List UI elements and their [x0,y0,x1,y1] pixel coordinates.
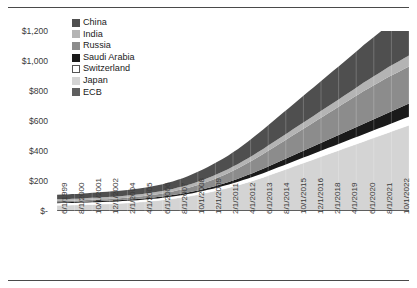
legend-label: ECB [83,87,102,99]
y-axis-tick-label: $600 [4,116,48,126]
legend-item-ecb[interactable]: ECB [72,87,135,99]
x-axis-tick-label: 12/1/2002 [111,178,120,214]
legend-label: Russia [83,40,111,52]
y-axis-tick-label: $1,200 [4,26,48,36]
y-axis-tick-label: $200 [4,176,48,186]
x-axis-tick-label: 10/1/2008 [197,178,206,214]
y-axis-tick-label: $400 [4,146,48,156]
x-axis-tick-label: 4/1/2019 [350,182,359,214]
legend-label: Switzerland [83,63,130,75]
legend-swatch-icon [72,30,80,38]
x-axis-tick-label: 6/1/2013 [265,182,274,214]
legend: ChinaIndiaRussiaSaudi ArabiaSwitzerlandJ… [72,17,135,98]
legend-label: India [83,29,103,41]
legend-swatch-icon [72,54,80,62]
x-axis-tick-label: 4/1/2012 [248,182,257,214]
legend-swatch-icon [72,19,80,27]
x-axis-tick-label: 6/1/1999 [60,182,69,214]
legend-item-saudi-arabia[interactable]: Saudi Arabia [72,52,135,64]
legend-item-china[interactable]: China [72,17,135,29]
x-axis-tick-label: 2/1/2011 [231,183,240,214]
x-axis-tick-label: 10/1/2015 [299,178,308,214]
top-divider-rule [8,7,409,8]
x-axis-tick-label: 8/1/2007 [180,182,189,214]
legend-swatch-icon [72,77,80,85]
legend-item-japan[interactable]: Japan [72,75,135,87]
legend-label: Saudi Arabia [83,52,135,64]
y-axis-tick-label: $- [4,206,48,216]
x-axis-tick-label: 8/1/2021 [385,182,394,214]
x-axis-tick-label: 8/1/2000 [77,182,86,214]
legend-swatch-icon [72,88,80,96]
x-axis-tick-label: 2/1/2018 [333,182,342,214]
y-axis-tick-label: $1,000 [4,56,48,66]
x-axis-tick-label: 8/1/2014 [282,182,291,214]
bottom-divider-rule [8,280,409,281]
y-axis-tick-label: $800 [4,86,48,96]
legend-label: China [83,17,107,29]
x-axis-tick-label: 6/1/2006 [163,182,172,214]
legend-swatch-icon [72,65,80,73]
legend-label: Japan [83,75,108,87]
x-axis-tick-label: 10/1/2022 [402,178,411,214]
x-axis-tick-label: 10/1/2001 [94,178,103,214]
legend-swatch-icon [72,42,80,50]
figure: Millions $-$200$400$600$800$1,000$1,200 … [0,0,417,288]
x-axis-tick-label: 12/1/2016 [316,178,325,214]
legend-item-russia[interactable]: Russia [72,40,135,52]
x-axis-tick-label: 6/1/2020 [368,182,377,214]
legend-item-switzerland[interactable]: Switzerland [72,63,135,75]
legend-item-india[interactable]: India [72,29,135,41]
x-axis-tick-label: 2/1/2004 [128,182,137,214]
x-axis-tick-label: 4/1/2005 [145,182,154,214]
x-axis-tick-label: 12/1/2009 [214,178,223,214]
